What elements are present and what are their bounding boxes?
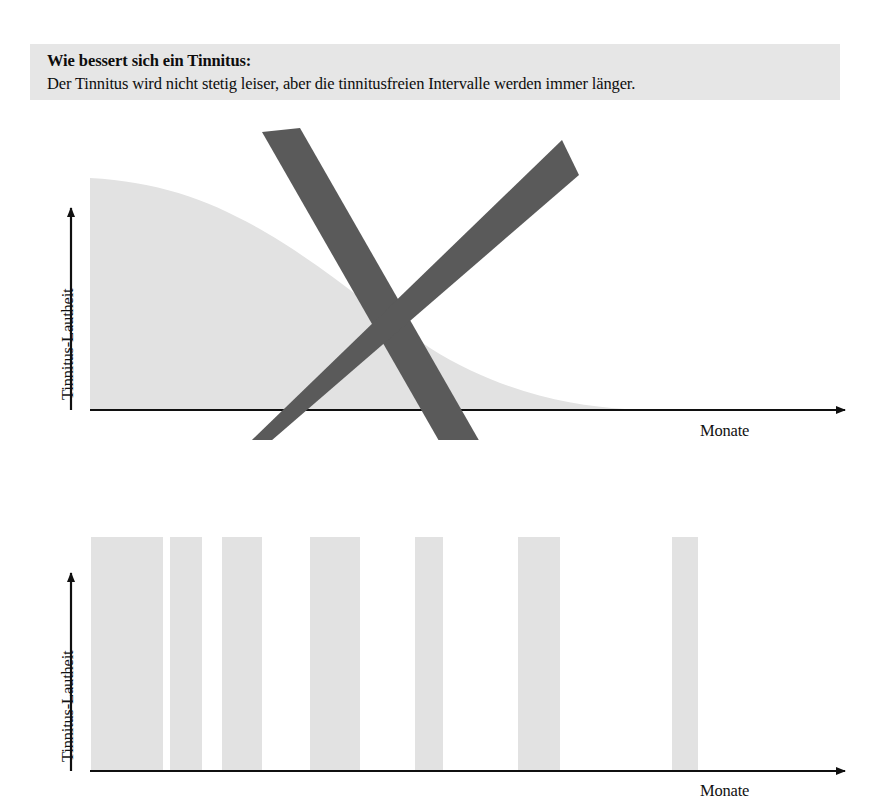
- chart-top-svg: [0, 120, 869, 440]
- page-title: Wie bessert sich ein Tinnitus:: [47, 49, 840, 72]
- bar-item: [91, 537, 163, 771]
- bar-series-group: [91, 537, 698, 771]
- bar-item: [170, 537, 202, 771]
- bar-item: [222, 537, 262, 771]
- y-axis-title-bottom: Tinnitus-Lautheit: [58, 651, 78, 763]
- chart-bottom-svg: [0, 520, 869, 804]
- bar-item: [310, 537, 360, 771]
- x-axis-title-bottom: Monate: [700, 781, 749, 801]
- chart-bottom-bars: [0, 520, 869, 804]
- header-banner: Wie bessert sich ein Tinnitus: Der Tinni…: [30, 44, 840, 100]
- x-axis-title-top: Monate: [700, 421, 749, 441]
- y-axis-title-top: Tinnitus-Lautheit: [58, 289, 78, 401]
- bar-item: [672, 537, 698, 771]
- chart-top-area: [0, 120, 869, 440]
- bar-item: [415, 537, 443, 771]
- bar-item: [518, 537, 560, 771]
- page-subtitle: Der Tinnitus wird nicht stetig leiser, a…: [47, 72, 840, 96]
